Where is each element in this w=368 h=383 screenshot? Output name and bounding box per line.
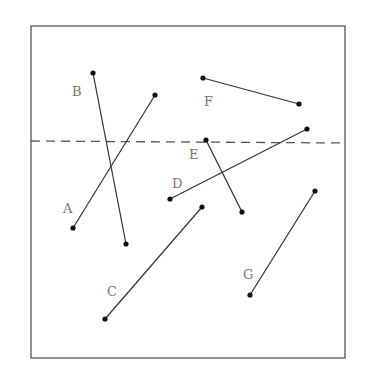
dashed-reference-line	[31, 141, 345, 143]
segment-g: G	[243, 188, 318, 297]
endpoint-dot-start	[70, 225, 75, 230]
segment-c: C	[102, 204, 204, 321]
segment-line	[250, 191, 315, 295]
endpoint-dot-start	[102, 316, 107, 321]
endpoint-dot-end	[199, 204, 204, 209]
diagram-frame	[31, 26, 345, 358]
segment-label: A	[62, 201, 73, 216]
segment-line	[170, 129, 307, 199]
endpoint-dot-end	[296, 101, 301, 106]
endpoint-dot-start	[247, 292, 252, 297]
segment-d: D	[167, 126, 309, 201]
endpoint-dot-end	[239, 209, 244, 214]
segment-label: D	[172, 176, 182, 191]
segment-label: C	[107, 284, 117, 299]
endpoint-dot-end	[312, 188, 317, 193]
segment-label: F	[204, 94, 213, 109]
line-segments-diagram: ABCDEFG	[0, 0, 368, 383]
endpoint-dot-start	[167, 196, 172, 201]
segment-label: G	[243, 267, 253, 282]
segment-f: F	[200, 75, 301, 109]
segments-group: ABCDEFG	[62, 70, 318, 321]
segment-line	[206, 140, 242, 212]
segment-line	[203, 78, 299, 104]
segment-e: E	[189, 137, 245, 214]
endpoint-dot-end	[123, 241, 128, 246]
endpoint-dot-end	[304, 126, 309, 131]
endpoint-dot-start	[90, 70, 95, 75]
endpoint-dot-start	[203, 137, 208, 142]
segment-line	[73, 95, 155, 228]
segment-line	[105, 207, 202, 319]
endpoint-dot-end	[152, 92, 157, 97]
segment-label: B	[72, 84, 82, 99]
segment-b: B	[72, 70, 129, 246]
endpoint-dot-start	[200, 75, 205, 80]
segment-line	[93, 73, 126, 244]
segment-label: E	[189, 147, 199, 162]
